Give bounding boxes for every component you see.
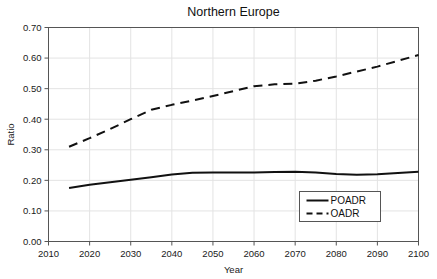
x-axis-tick-label: 2080 [326, 248, 347, 259]
x-axis-tick-label: 2040 [161, 248, 182, 259]
y-axis-tick-label: 0.30 [23, 144, 42, 155]
y-axis-tick-label: 0.20 [23, 175, 42, 186]
chart-title: Northern Europe [187, 5, 279, 19]
x-axis-tick-label: 2050 [202, 248, 223, 259]
y-axis-tick-label: 0.10 [23, 205, 42, 216]
x-axis-tick-label: 2100 [408, 248, 429, 259]
x-axis-title: Year [224, 264, 243, 275]
x-axis-tick-label: 2060 [243, 248, 264, 259]
chart-container: 0.000.100.200.300.400.500.600.7020102020… [0, 0, 437, 279]
legend-label-oadr: OADR [331, 208, 360, 219]
y-axis-tick-label: 0.00 [23, 236, 42, 247]
x-axis-tick-label: 2070 [285, 248, 306, 259]
x-axis-tick-label: 2090 [367, 248, 388, 259]
x-axis-tick-label: 2010 [38, 248, 59, 259]
legend-label-poadr: POADR [331, 195, 367, 206]
y-axis-tick-label: 0.60 [23, 52, 42, 63]
y-axis-tick-label: 0.40 [23, 114, 42, 125]
y-axis-title: Ratio [5, 123, 16, 145]
y-axis-tick-label: 0.70 [23, 22, 42, 33]
x-axis-tick-label: 2030 [120, 248, 141, 259]
line-chart: 0.000.100.200.300.400.500.600.7020102020… [0, 0, 437, 279]
x-axis-tick-label: 2020 [79, 248, 100, 259]
y-axis-tick-label: 0.50 [23, 83, 42, 94]
